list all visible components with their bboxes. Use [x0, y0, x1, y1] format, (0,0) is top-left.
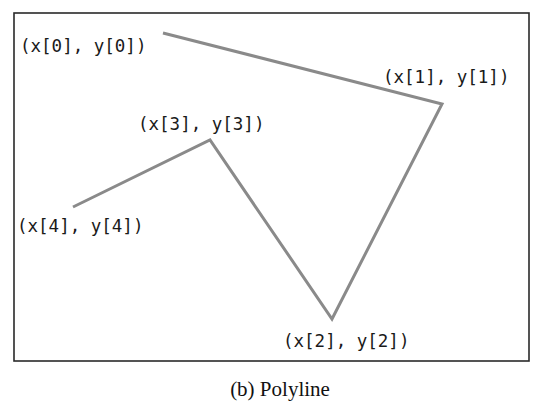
figure-frame — [14, 13, 529, 361]
vertex-label-3: (x[3], y[3]) — [138, 114, 264, 134]
vertex-label-4: (x[4], y[4]) — [17, 216, 143, 236]
vertex-label-1: (x[1], y[1]) — [383, 67, 509, 87]
polyline-figure: (x[0], y[0]) (x[1], y[1]) (x[2], y[2]) (… — [0, 0, 542, 416]
figure-caption: (b) Polyline — [230, 377, 330, 401]
vertex-label-2: (x[2], y[2]) — [283, 331, 409, 351]
vertex-label-0: (x[0], y[0]) — [20, 36, 146, 56]
